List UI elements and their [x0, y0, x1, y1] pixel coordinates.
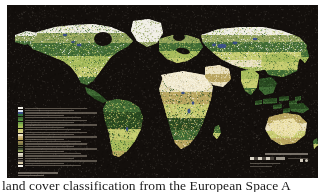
legend-item	[18, 165, 104, 167]
circle-marker-icon	[305, 159, 308, 162]
map-legend	[18, 105, 104, 167]
legend-label	[25, 148, 97, 149]
scale-marker-icons	[300, 159, 308, 162]
legend-label	[25, 132, 87, 133]
legend-label	[25, 117, 82, 118]
legend-swatch	[18, 165, 23, 167]
legend-label	[25, 112, 97, 113]
legend-label	[25, 151, 65, 152]
legend-footnote-line	[18, 172, 58, 174]
legend-label	[25, 124, 97, 125]
legend-label	[25, 165, 82, 166]
map-scale-block	[250, 153, 308, 175]
legend-label	[25, 163, 65, 164]
legend-label	[25, 115, 65, 116]
legend-footnote	[18, 172, 58, 178]
legend-rows	[18, 107, 104, 167]
scale-credit	[250, 166, 272, 167]
world-land-cover-map-figure	[7, 5, 318, 178]
legend-label	[25, 160, 97, 161]
scale-bar-segment	[270, 157, 274, 159]
legend-label	[25, 158, 75, 159]
legend-label	[25, 127, 65, 128]
legend-label	[25, 129, 82, 130]
scale-title	[265, 153, 308, 155]
scale-subtitle	[250, 163, 280, 164]
legend-label	[25, 108, 87, 109]
legend-label	[25, 120, 87, 121]
legend-footnote-line	[18, 175, 44, 177]
legend-label	[25, 153, 82, 154]
legend-label	[25, 143, 87, 144]
figure-caption: land cover classification from the Europ…	[0, 179, 326, 192]
legend-label	[25, 139, 65, 140]
legend-label	[25, 141, 82, 142]
legend-label	[25, 136, 97, 137]
page-sheet: land cover classification from the Europ…	[0, 0, 326, 192]
square-marker-icon	[300, 159, 303, 162]
legend-label	[25, 110, 75, 111]
legend-label	[25, 122, 75, 123]
legend-label	[25, 155, 87, 156]
legend-label	[25, 146, 75, 147]
legend-label	[25, 134, 75, 135]
scale-value-label	[276, 157, 285, 160]
